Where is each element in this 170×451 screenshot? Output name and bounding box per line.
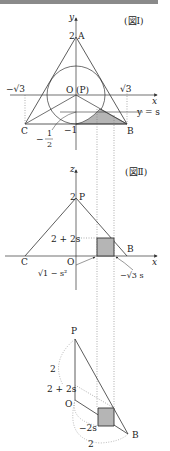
svg-text:−: − bbox=[36, 134, 44, 144]
svg-text:B: B bbox=[127, 244, 134, 254]
shaded-square-2 bbox=[97, 238, 114, 256]
z-axis-label: z bbox=[69, 164, 75, 174]
label-sqrt-1-minus-s2: √1 − s² bbox=[38, 269, 67, 278]
point-O: O bbox=[66, 85, 73, 95]
figure-2: (図Ⅱ) z x 2 P 2 + 2s C O B √1 − s² −√3 s bbox=[5, 164, 157, 290]
svg-text:−2s: −2s bbox=[79, 423, 97, 433]
label-2-plus-2s: 2 + 2s bbox=[51, 234, 81, 244]
svg-text:x: x bbox=[152, 257, 157, 267]
point-B: B bbox=[127, 126, 134, 136]
svg-text:B: B bbox=[132, 430, 139, 440]
svg-text:O: O bbox=[67, 257, 74, 267]
figure-1: (図Ⅰ) y x 2 A O (P) −√3 √3 C B −1 y = s −… bbox=[6, 12, 160, 256]
point-C: C bbox=[21, 126, 28, 136]
point-A: A bbox=[77, 31, 85, 41]
svg-text:2: 2 bbox=[47, 140, 52, 149]
svg-text:2: 2 bbox=[88, 439, 94, 449]
svg-text:1: 1 bbox=[47, 129, 52, 138]
figure-3: P 2 2 + 2s O −2s B 2 bbox=[47, 256, 139, 449]
diagram-canvas: (図Ⅰ) y x 2 A O (P) −√3 √3 C B −1 y = s −… bbox=[0, 0, 170, 451]
y-axis-label: y bbox=[68, 12, 75, 22]
svg-text:2 + 2s: 2 + 2s bbox=[47, 384, 77, 394]
label-sqrt3: √3 bbox=[120, 84, 132, 94]
svg-text:C: C bbox=[21, 257, 28, 267]
label-y-equals-s: y = s bbox=[136, 107, 160, 117]
x-axis-label: x bbox=[152, 96, 157, 106]
svg-text:2: 2 bbox=[70, 192, 76, 202]
segment-OC bbox=[25, 95, 76, 124]
label-neg-sqrt3: −√3 bbox=[6, 84, 25, 94]
svg-text:O: O bbox=[65, 399, 72, 409]
figure-2-title: (図Ⅱ) bbox=[125, 167, 147, 177]
shaded-square-3 bbox=[98, 408, 114, 426]
label-neg1: −1 bbox=[64, 125, 77, 135]
figure-1-title: (図Ⅰ) bbox=[124, 16, 144, 26]
label-neg-sqrt3-s: −√3 s bbox=[120, 271, 144, 280]
point-P-paren: (P) bbox=[76, 85, 89, 95]
svg-text:2: 2 bbox=[50, 364, 56, 374]
point-P: P bbox=[79, 192, 85, 202]
svg-text:P: P bbox=[71, 326, 77, 336]
svg-text:2: 2 bbox=[69, 31, 75, 41]
